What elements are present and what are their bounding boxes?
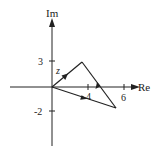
x-tick-6: 6 (121, 92, 126, 103)
y-axis-label: Im (46, 7, 59, 19)
vector-triangle (52, 62, 116, 108)
x-tick-4: 4 (86, 91, 91, 102)
y-tick-neg2: -2 (34, 106, 42, 117)
y-tick-3: 3 (38, 56, 43, 67)
real-axis (10, 84, 140, 90)
x-axis-label: Re (138, 81, 150, 93)
imaginary-axis-arrow-icon (49, 18, 55, 27)
vector-z-label: z (55, 65, 60, 76)
complex-plane-diagram: Im Re 3 -2 4 6 z (0, 0, 156, 149)
imaginary-axis (49, 18, 55, 146)
